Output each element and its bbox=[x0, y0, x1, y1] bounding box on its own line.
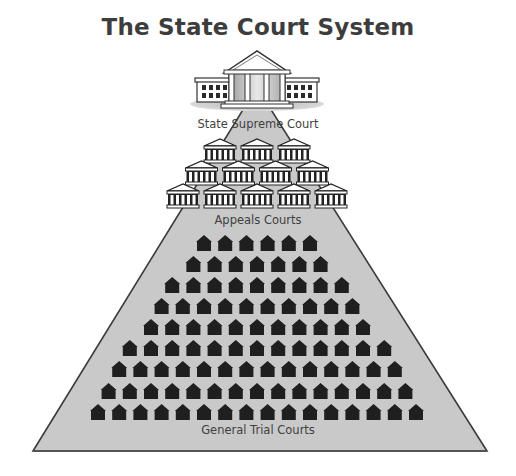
pyramid-diagram bbox=[0, 0, 516, 476]
trial-courts-label: General Trial Courts bbox=[0, 423, 516, 437]
appeals-courts-label: Appeals Courts bbox=[0, 213, 516, 227]
supreme-court-label: State Supreme Court bbox=[0, 117, 516, 131]
large-courthouse-icon bbox=[190, 51, 324, 111]
